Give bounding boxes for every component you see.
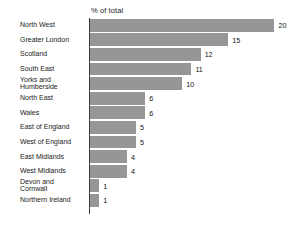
bar-track: 12 — [90, 48, 295, 61]
bar-row: North East6 — [0, 91, 299, 106]
bar — [90, 136, 136, 149]
bar-row: North West20 — [0, 18, 299, 33]
bar-value-label: 1 — [103, 181, 107, 190]
bar-track: 11 — [90, 63, 295, 76]
bar-row: Yorks and Humberside10 — [0, 76, 299, 91]
bar-track: 6 — [90, 92, 295, 105]
bar-track: 20 — [90, 19, 295, 32]
bar — [90, 194, 99, 207]
bar-value-label: 6 — [149, 94, 153, 103]
bar-value-label: 1 — [103, 196, 107, 205]
bar — [90, 63, 191, 76]
bar-rows: North West20Greater London15Scotland12So… — [0, 18, 299, 208]
bar — [90, 77, 182, 90]
bar-track: 4 — [90, 165, 295, 178]
bar — [90, 165, 127, 178]
category-label: West of England — [20, 138, 86, 146]
bar — [90, 92, 145, 105]
category-label: Greater London — [20, 36, 86, 44]
bar — [90, 121, 136, 134]
bar-track: 15 — [90, 33, 295, 46]
category-label: East Midlands — [20, 153, 86, 161]
bar-track: 5 — [90, 121, 295, 134]
bar-row: West Midlands4 — [0, 164, 299, 179]
chart-title: % of total — [91, 6, 123, 15]
bar-track: 6 — [90, 106, 295, 119]
category-label: Yorks and Humberside — [20, 76, 86, 91]
bar-row: West of England5 — [0, 135, 299, 150]
bar-row: South East11 — [0, 62, 299, 77]
bar-value-label: 5 — [140, 138, 144, 147]
bar-row: Greater London15 — [0, 33, 299, 48]
bar — [90, 106, 145, 119]
category-label: Northern Ireland — [20, 197, 86, 205]
bar — [90, 48, 201, 61]
category-label: Wales — [20, 109, 86, 117]
bar — [90, 179, 99, 192]
bar-row: Wales6 — [0, 106, 299, 121]
category-label: Devon and Cornwall — [20, 178, 86, 193]
bar-value-label: 5 — [140, 123, 144, 132]
bar-track: 10 — [90, 77, 295, 90]
bar-track: 1 — [90, 194, 295, 207]
bar-value-label: 4 — [131, 152, 135, 161]
bar-value-label: 20 — [278, 21, 286, 30]
bar — [90, 19, 274, 32]
category-label: North West — [20, 22, 86, 30]
bar — [90, 150, 127, 163]
bar-value-label: 12 — [205, 50, 213, 59]
category-label: West Midlands — [20, 167, 86, 175]
bar-track: 1 — [90, 179, 295, 192]
bar-value-label: 11 — [195, 65, 202, 74]
bar-row: East Midlands4 — [0, 149, 299, 164]
category-label: Scotland — [20, 51, 86, 59]
bar-value-label: 4 — [131, 167, 135, 176]
category-label: North East — [20, 94, 86, 102]
bar-row: East of England5 — [0, 120, 299, 135]
plot-area: North West20Greater London15Scotland12So… — [0, 18, 299, 218]
bar — [90, 33, 228, 46]
bar-value-label: 15 — [232, 35, 240, 44]
bar-value-label: 10 — [186, 79, 194, 88]
category-label: East of England — [20, 124, 86, 132]
bar-row: Devon and Cornwall1 — [0, 179, 299, 194]
bar-track: 4 — [90, 150, 295, 163]
category-label: South East — [20, 65, 86, 73]
bar-track: 5 — [90, 136, 295, 149]
bar-row: Scotland12 — [0, 47, 299, 62]
bar-chart: % of total North West20Greater London15S… — [0, 0, 299, 237]
bar-value-label: 6 — [149, 108, 153, 117]
bar-row: Northern Ireland1 — [0, 193, 299, 208]
